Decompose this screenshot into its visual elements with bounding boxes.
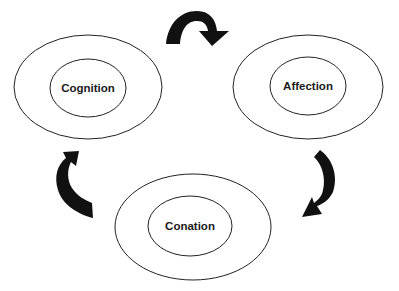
curved-arrow-affection-to-conation-icon bbox=[302, 150, 335, 217]
conation-label: Conation bbox=[165, 220, 215, 232]
affection-label: Affection bbox=[283, 80, 333, 92]
curved-arrow-cognition-to-affection-icon bbox=[166, 11, 229, 46]
curved-arrow-conation-to-cognition-icon bbox=[56, 151, 93, 218]
tricomponent-cycle-diagram: Cognition Affection Conation bbox=[0, 0, 399, 291]
node-affection: Affection bbox=[233, 35, 383, 139]
cognition-label: Cognition bbox=[61, 82, 115, 94]
node-cognition: Cognition bbox=[14, 35, 162, 139]
node-conation: Conation bbox=[115, 174, 271, 280]
